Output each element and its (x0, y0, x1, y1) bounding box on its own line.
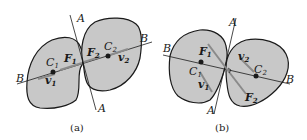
caption-b: (b) (215, 122, 229, 133)
caption-a: (a) (70, 122, 84, 133)
center-1-dot (199, 60, 204, 65)
label-b-left: B (15, 72, 24, 85)
panel-b: A A B B C1 C2 F1 F2 v1 v2 (b) (162, 16, 294, 133)
label-a-top: A (228, 16, 237, 29)
label-a-top: A (76, 12, 85, 25)
collision-diagram: A A B B C1 C2 F1 F2 v1 v2 (a) A A B B (0, 0, 307, 140)
label-b-left: B (162, 42, 171, 55)
body-1 (169, 30, 227, 103)
panel-a: A A B B C1 C2 F1 F2 v1 v2 (a) (15, 12, 152, 133)
label-a-bottom: A (206, 104, 215, 117)
label-b-right: B (285, 73, 294, 86)
label-b-right: B (139, 32, 148, 45)
label-a-bottom: A (97, 102, 106, 115)
center-2-dot (106, 54, 111, 59)
diagram-canvas: A A B B C1 C2 F1 F2 v1 v2 (a) A A B B (0, 0, 307, 140)
